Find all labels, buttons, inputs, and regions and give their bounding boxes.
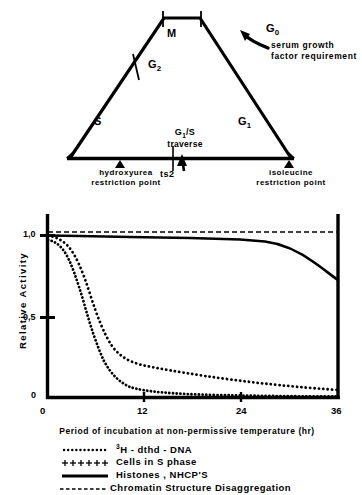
y-tick-label-1-0: 1,0 — [23, 229, 36, 239]
label-g2-letter: G — [148, 58, 157, 70]
y-tick-label-0: 0 — [31, 390, 36, 400]
isoleucine-line-1: isoleucine — [243, 168, 339, 178]
ts2-label: ts2 — [160, 169, 175, 179]
legend-item-histones-nhcps: Histones , NHCP'S — [58, 469, 358, 482]
series-histones-nhcps — [48, 236, 338, 281]
isoleucine-line-2: restriction point — [243, 178, 339, 188]
g1s-rest: /S — [186, 127, 195, 137]
legend-text-1: H - dthd - DNA — [120, 444, 192, 455]
solid-line-icon — [58, 469, 112, 482]
activity-chart: Relative Activity 1,0 0,5 0 0 12 24 36 P… — [0, 200, 362, 495]
x-tick-label-0: 0 — [40, 405, 45, 416]
label-g2-phase: G2 — [148, 58, 162, 73]
label-g1-letter: G — [238, 115, 247, 127]
x-axis-title: Period of incubation at non-permissive t… — [22, 426, 352, 436]
legend-item-3h-dthd-dna: 3H - dthd - DNA — [58, 443, 358, 456]
label-g2-subscript: 2 — [157, 64, 162, 73]
x-tick-label-36: 36 — [331, 405, 342, 416]
legend-label-3h-dthd-dna: 3H - dthd - DNA — [116, 443, 192, 455]
label-g0-letter: G — [266, 22, 275, 34]
legend-item-cells-in-s-phase: Cells in S phase — [58, 456, 358, 469]
label-g1-subscript: 1 — [247, 121, 252, 130]
series-cells-in-s-phase — [48, 236, 338, 391]
label-m-phase: M — [167, 27, 176, 39]
marker-hydroxyurea — [115, 160, 125, 168]
isoleucine-restriction-point-label: isoleucine restriction point — [243, 168, 339, 188]
legend-label-cells-in-s-phase: Cells in S phase — [116, 456, 197, 467]
label-s-phase: S — [94, 115, 102, 127]
figure-page: M G2 G0 serum growth factor requirement … — [0, 0, 362, 495]
dashed-line-icon — [58, 482, 112, 495]
serum-note-line-2: factor requirement — [271, 51, 357, 62]
chart-legend: 3H - dthd - DNA Cells in S phase — [58, 443, 358, 495]
legend-item-chromatin-structure-disaggregation: Chromatin Structure Disaggregation — [58, 482, 358, 495]
label-g0-subscript: 0 — [275, 28, 280, 37]
label-g1-phase: G1 — [238, 115, 252, 130]
serum-note-line-1: serum growth — [271, 40, 357, 51]
label-g0-phase: G0 — [266, 22, 280, 37]
x-tick-label-12: 12 — [137, 405, 148, 416]
legend-label-histones-nhcps: Histones , NHCP'S — [116, 469, 208, 480]
serum-growth-factor-note: serum growth factor requirement — [271, 40, 357, 62]
marker-isoleucine — [284, 160, 294, 168]
g1s-traverse-label: G1/S traverse — [155, 128, 215, 150]
y-axis-title: Relative Activity — [17, 251, 28, 351]
y-tick-label-0-5: 0,5 — [23, 312, 36, 322]
dotted-line-icon — [58, 443, 112, 456]
hydroxyurea-line-2: restriction point — [78, 178, 174, 188]
g1s-traverse-line-2: traverse — [155, 140, 215, 150]
cell-cycle-diagram: M G2 G0 serum growth factor requirement … — [0, 0, 362, 200]
plus-line-icon — [58, 456, 112, 469]
legend-label-chromatin-structure-disaggregation: Chromatin Structure Disaggregation — [110, 482, 291, 493]
x-tick-label-24: 24 — [236, 405, 247, 416]
